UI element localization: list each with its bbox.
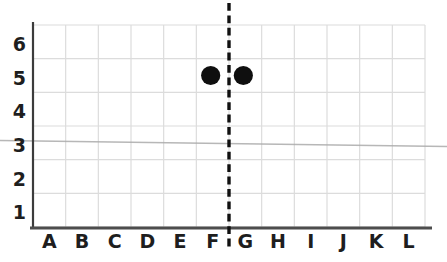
data-point <box>201 66 220 85</box>
grid-chart: 123456ABCDEFGHIJKL <box>0 0 447 262</box>
x-axis-label: I <box>307 230 314 252</box>
x-axis-label: F <box>206 230 219 252</box>
data-points <box>201 66 253 85</box>
worksheet-grid-page: 123456ABCDEFGHIJKL <box>0 0 447 262</box>
y-axis-label: 6 <box>13 33 26 55</box>
scan-artifact-line <box>0 141 447 147</box>
x-axis-label: J <box>338 230 347 252</box>
x-axis-label: B <box>75 230 89 252</box>
x-axis-label: K <box>369 230 385 252</box>
x-axis-label: L <box>403 230 415 252</box>
x-axis-label: H <box>270 230 286 252</box>
x-axis-label: C <box>108 230 122 252</box>
x-axis-label: D <box>139 230 155 252</box>
y-axis-labels: 123456 <box>13 33 26 223</box>
x-axis-label: G <box>238 230 254 252</box>
y-axis-label: 4 <box>13 100 26 122</box>
y-axis-label: 2 <box>13 168 26 190</box>
y-axis-label: 1 <box>13 201 26 223</box>
x-axis-label: E <box>174 230 187 252</box>
data-point <box>234 66 253 85</box>
y-axis-label: 5 <box>13 67 26 89</box>
y-axis-label: 3 <box>13 134 26 156</box>
x-axis-label: A <box>42 230 57 252</box>
